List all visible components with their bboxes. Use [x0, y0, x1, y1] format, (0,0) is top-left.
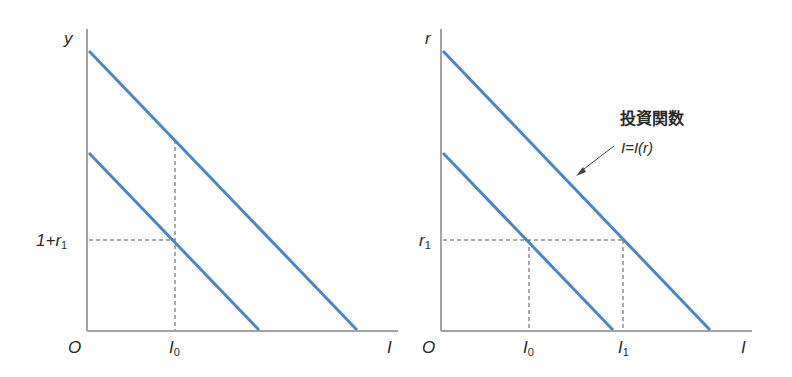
right-x-tick-label-i1: I1 [618, 338, 629, 358]
right-upper-line [443, 51, 710, 330]
left-lower-line [89, 153, 259, 330]
right-panel: r O I r1 I0 I1 投資関数 I=I(r) [419, 29, 752, 358]
annotation-arrow [580, 146, 614, 172]
left-x-axis-label: I [387, 338, 392, 357]
right-lower-line [443, 153, 613, 330]
right-x-axis-label: I [741, 338, 746, 357]
right-y-axis-label: r [425, 29, 432, 48]
annotation-title: 投資関数 [620, 109, 685, 128]
right-x-tick-label-i0: I0 [523, 338, 534, 358]
left-y-axis-label: y [63, 29, 74, 48]
right-origin-label: O [422, 338, 435, 357]
left-y-tick-label: 1+r1 [36, 231, 67, 251]
left-panel: y O I 1+r1 I0 [36, 29, 398, 358]
left-upper-line [89, 51, 357, 330]
diagram-canvas: y O I 1+r1 I0 r O I r1 I0 I1 投資関数 I=I(r) [0, 0, 792, 377]
annotation-formula: I=I(r) [621, 139, 653, 156]
right-y-tick-label: r1 [419, 231, 431, 251]
left-origin-label: O [68, 338, 81, 357]
left-x-tick-label: I0 [169, 338, 180, 358]
